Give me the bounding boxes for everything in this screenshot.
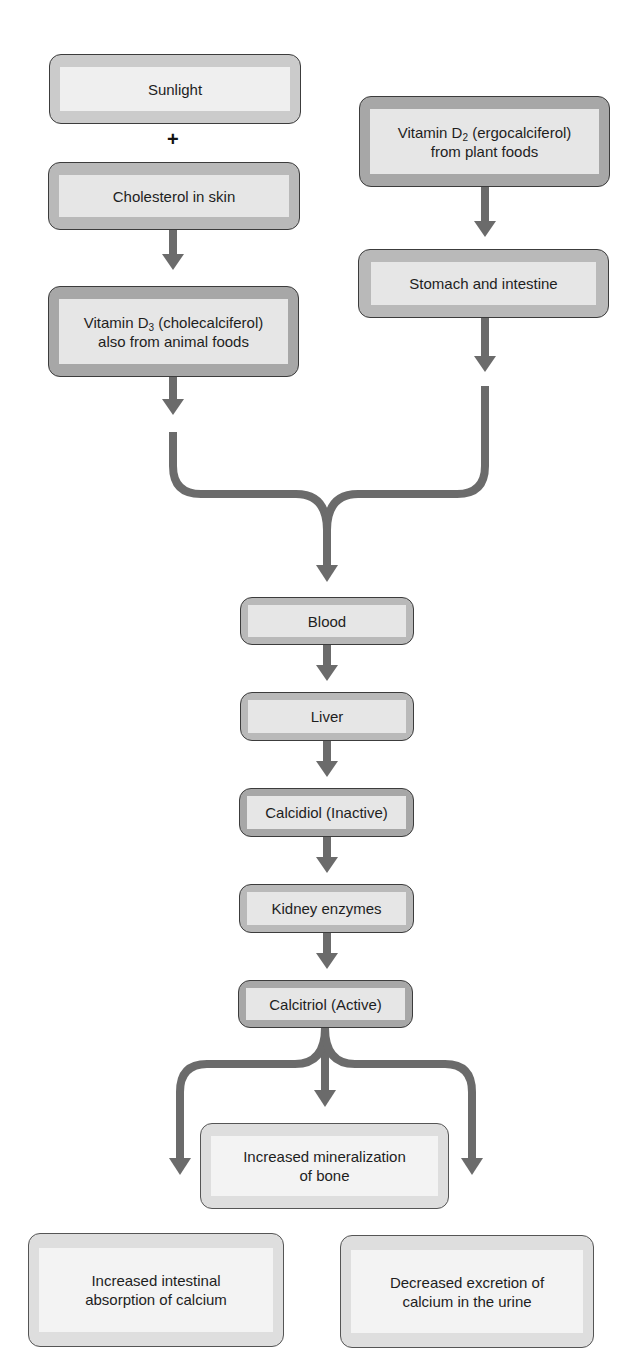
node-kidney-label: Kidney enzymes bbox=[247, 892, 406, 925]
node-vitamin-d3: Vitamin D3 (cholecalciferol) also from a… bbox=[48, 286, 299, 377]
node-blood-label: Blood bbox=[248, 605, 406, 637]
node-liver: Liver bbox=[240, 692, 414, 741]
node-bone-line1: Increased mineralization bbox=[243, 1147, 406, 1166]
node-liver-label: Liver bbox=[248, 700, 406, 733]
arrow-to-excretion bbox=[461, 1158, 483, 1175]
node-vitamin-d3-line2: also from animal foods bbox=[98, 332, 249, 351]
arrow-kidney-to-calcitriol bbox=[316, 932, 338, 969]
arrow-d3-down bbox=[162, 376, 184, 415]
node-vitamin-d2: Vitamin D2 (ergocalciferol) from plant f… bbox=[359, 96, 610, 187]
node-kidney-enzymes: Kidney enzymes bbox=[239, 884, 414, 933]
node-intestinal-line2: absorption of calcium bbox=[85, 1290, 227, 1309]
node-calcitriol-label: Calcitriol (Active) bbox=[246, 988, 405, 1020]
arrow-cholesterol-to-d3 bbox=[162, 229, 184, 270]
node-cholesterol-label: Cholesterol in skin bbox=[59, 175, 289, 217]
arrow-merge-to-blood bbox=[316, 565, 338, 582]
arrow-calcidiol-to-kidney bbox=[316, 836, 338, 873]
merge-connector-right bbox=[327, 386, 485, 530]
node-excretion-line2: calcium in the urine bbox=[402, 1292, 531, 1311]
plus-sign: + bbox=[167, 128, 179, 151]
node-bone-line2: of bone bbox=[299, 1166, 349, 1185]
node-sunlight: Sunlight bbox=[49, 54, 301, 124]
node-vitamin-d2-line1: Vitamin D2 (ergocalciferol) bbox=[398, 123, 572, 142]
arrow-stomach-down bbox=[474, 317, 496, 372]
node-blood: Blood bbox=[240, 597, 414, 645]
node-vitamin-d3-line1: Vitamin D3 (cholecalciferol) bbox=[84, 313, 264, 332]
node-cholesterol: Cholesterol in skin bbox=[48, 162, 300, 230]
node-intestinal-absorption: Increased intestinal absorption of calci… bbox=[28, 1233, 284, 1347]
node-decreased-excretion: Decreased excretion of calcium in the ur… bbox=[340, 1235, 594, 1348]
arrow-blood-to-liver bbox=[316, 644, 338, 681]
arrow-liver-to-calcidiol bbox=[316, 740, 338, 777]
node-stomach-label: Stomach and intestine bbox=[371, 262, 596, 305]
merge-connector-left bbox=[173, 432, 327, 567]
node-intestinal-line1: Increased intestinal bbox=[91, 1271, 220, 1290]
node-calcidiol-label: Calcidiol (Inactive) bbox=[247, 796, 406, 829]
node-vitamin-d2-line2: from plant foods bbox=[431, 142, 539, 161]
node-excretion-line1: Decreased excretion of bbox=[390, 1273, 544, 1292]
node-calcidiol: Calcidiol (Inactive) bbox=[239, 788, 414, 837]
node-bone-mineralization: Increased mineralization of bone bbox=[200, 1123, 449, 1209]
node-calcitriol: Calcitriol (Active) bbox=[238, 980, 413, 1028]
arrow-to-intestinal bbox=[169, 1158, 191, 1175]
arrow-d2-to-stomach bbox=[474, 186, 496, 237]
node-stomach-intestine: Stomach and intestine bbox=[358, 249, 609, 318]
node-sunlight-label: Sunlight bbox=[60, 67, 290, 111]
